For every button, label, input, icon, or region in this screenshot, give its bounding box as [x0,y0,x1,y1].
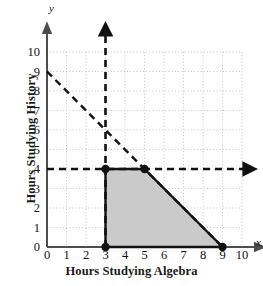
x-axis-variable-label: x [256,236,261,248]
vertex-5-4-marker [140,165,148,173]
x-tick-label-10: 10 [231,248,253,263]
feasible-region-graph: y x 0 1 2 3 4 5 6 7 8 9 10 0 1 2 3 4 5 6… [0,0,263,286]
vertex-3-4-marker [101,165,109,173]
y-axis-title: Hours Studying History [24,29,39,249]
x-axis-title: Hours Studying Algebra [0,264,263,279]
y-axis-variable-label: y [49,2,54,14]
